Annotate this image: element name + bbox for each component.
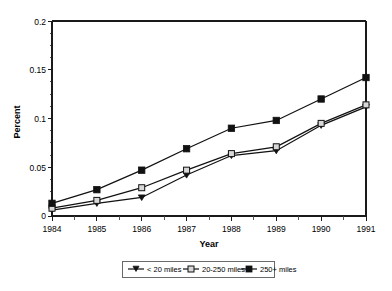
data-point-square-filled-icon	[273, 117, 279, 123]
square-open-icon	[188, 266, 194, 272]
data-point-square-filled-icon	[139, 167, 145, 173]
chart-container: Percent 0 0.05 0.1 0.15 0.2	[0, 0, 392, 291]
x-tick-label: 1989	[267, 224, 286, 234]
x-tick-label: 1984	[43, 224, 62, 234]
data-point-square-filled-icon	[49, 200, 55, 206]
x-tick-label: 1987	[177, 224, 196, 234]
data-point-square-filled-icon	[183, 146, 189, 152]
legend-label: 20-250 miles	[202, 265, 245, 274]
x-tick-label: 1985	[87, 224, 106, 234]
legend-item-2: 250+ miles	[241, 265, 297, 274]
legend-label: 250+ miles	[260, 265, 297, 274]
data-point-square-open-icon	[273, 144, 279, 150]
data-point-square-open-icon	[184, 167, 190, 173]
y-tick-label: 0.15	[29, 65, 46, 75]
x-tick-label: 1990	[312, 224, 331, 234]
legend-label: < 20 miles	[147, 265, 182, 274]
data-point-square-filled-icon	[363, 74, 369, 80]
y-tick-label: 0	[41, 211, 46, 221]
data-point-square-open-icon	[363, 102, 369, 108]
x-tick-label: 1991	[357, 224, 376, 234]
data-point-square-filled-icon	[94, 186, 100, 192]
chart-legend: < 20 miles 20-250 miles 250+ miles	[122, 261, 297, 277]
data-point-square-open-icon	[228, 151, 234, 157]
data-point-square-filled-icon	[228, 125, 234, 131]
x-axis-title-text: Year	[199, 239, 219, 249]
legend-item-1: 20-250 miles	[183, 265, 245, 274]
y-tick-label: 0.1	[34, 114, 46, 124]
data-point-square-open-icon	[318, 120, 324, 126]
square-filled-icon	[246, 266, 252, 272]
y-tick-label: 0.2	[34, 17, 46, 27]
data-point-square-open-icon	[139, 185, 145, 191]
data-point-square-filled-icon	[318, 96, 324, 102]
y-axis-title-text: Percent	[12, 105, 22, 138]
data-point-square-open-icon	[94, 197, 100, 203]
x-tick-label: 1986	[132, 224, 151, 234]
y-tick-label: 0.05	[29, 163, 46, 173]
line-chart: Percent 0 0.05 0.1 0.15 0.2	[0, 0, 392, 291]
y-axis-title: Percent	[12, 105, 22, 138]
x-tick-label: 1988	[222, 224, 241, 234]
chart-background	[0, 0, 392, 291]
